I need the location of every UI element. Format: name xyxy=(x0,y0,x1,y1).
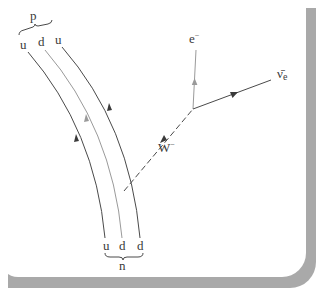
proton-label: p xyxy=(30,8,37,23)
neutron-quark-1: u xyxy=(103,238,110,253)
w-boson-label: W− xyxy=(158,140,175,155)
proton-quark-2: d xyxy=(38,34,45,49)
neutron-label: n xyxy=(119,258,126,273)
arrow-icon xyxy=(192,78,198,85)
proton-quark-3: u xyxy=(55,32,62,47)
neutron-quark-2: d xyxy=(119,238,126,253)
arrow-icon xyxy=(74,134,79,142)
arrow-icon xyxy=(107,103,112,111)
quark-line-u xyxy=(28,52,105,238)
electron-label: e− xyxy=(189,31,200,46)
antineutrino-label: ν̄e xyxy=(277,66,288,82)
neutron-quark-3: d xyxy=(137,238,144,253)
proton-quark-1: u xyxy=(20,37,27,52)
feynman-diagram: p u d u W− e− ν̄e u d d n xyxy=(0,0,316,288)
